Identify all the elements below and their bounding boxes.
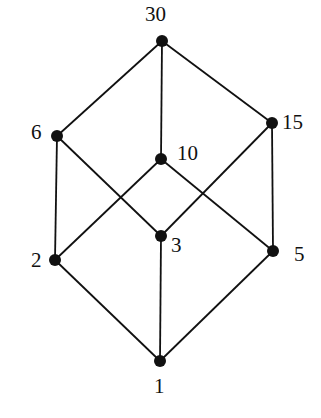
- edge-2-1: [55, 260, 160, 361]
- edge-30-10: [161, 41, 162, 159]
- edge-10-2: [55, 159, 161, 260]
- edge-15-5: [272, 123, 273, 251]
- node-label-15: 15: [282, 112, 303, 133]
- edge-6-2: [55, 136, 57, 260]
- edge-30-6: [57, 41, 162, 136]
- node-6: [51, 130, 63, 142]
- node-10: [155, 153, 167, 165]
- node-label-10: 10: [177, 143, 198, 164]
- node-label-1: 1: [154, 376, 165, 397]
- diagram-graph: [0, 0, 321, 418]
- edges-layer: [55, 41, 273, 361]
- nodes-layer: [49, 35, 279, 367]
- node-label-5: 5: [294, 244, 305, 265]
- node-label-6: 6: [31, 122, 42, 143]
- edge-5-1: [160, 251, 273, 361]
- edge-6-3: [57, 136, 161, 236]
- edge-3-1: [160, 236, 161, 361]
- node-2: [49, 254, 61, 266]
- node-label-30: 30: [145, 4, 166, 25]
- node-label-2: 2: [31, 250, 42, 271]
- edge-30-15: [162, 41, 272, 123]
- node-15: [266, 117, 278, 129]
- edge-15-3: [161, 123, 272, 236]
- node-5: [267, 245, 279, 257]
- hasse-diagram: 30615103251: [0, 0, 321, 418]
- node-1: [154, 355, 166, 367]
- node-label-3: 3: [171, 235, 182, 256]
- node-30: [156, 35, 168, 47]
- node-3: [155, 230, 167, 242]
